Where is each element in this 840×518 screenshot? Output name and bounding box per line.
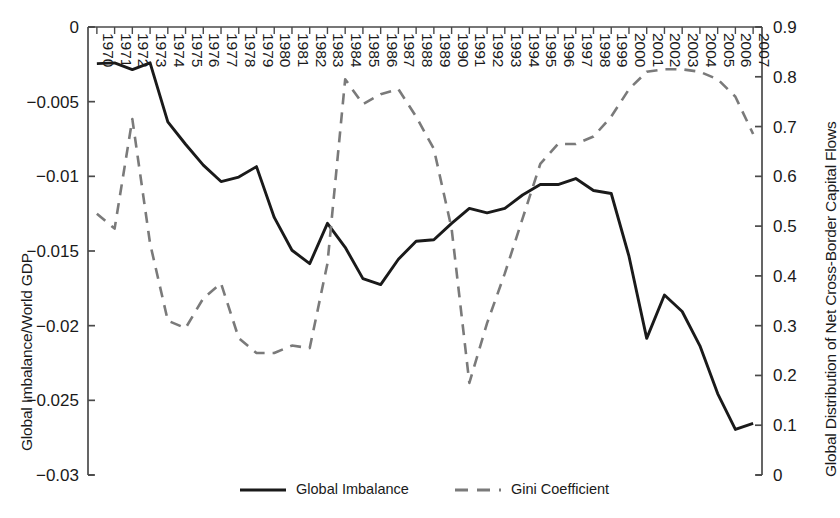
right-y-tick-label: 0.4 [773,267,797,286]
x-axis-tick-label: 1994 [526,33,543,68]
left-y-tick-label: −0.005 [27,93,79,112]
x-axis-tick-label: 2006 [738,33,755,67]
left-y-tick-label: −0.03 [36,466,79,485]
right-y-tick-label: 0.8 [773,68,797,87]
x-axis-tick-label: 1977 [224,33,241,67]
x-axis-tick-label: 1987 [401,33,418,67]
x-axis-tick-label: 1981 [295,33,312,67]
x-axis-tick-label: 1983 [330,33,347,67]
x-axis-tick-label: 1975 [189,33,206,67]
x-axis-tick-label: 1993 [508,33,525,67]
x-axis-tick-label: 1982 [313,33,330,67]
x-axis-tick-label: 1971 [118,33,135,67]
right-y-tick-label: 0.5 [773,217,797,236]
right-axis-title: Global Distribution of Net Cross-Border … [822,121,840,477]
x-axis-tick-label: 1995 [543,33,560,67]
left-y-tick-label: −0.01 [36,167,79,186]
legend-label-global-imbalance: Global Imbalance [296,481,409,497]
x-axis-labels: 1970197119721973197419751976197719781979… [100,33,773,68]
x-axis-tick-label: 1976 [206,33,223,67]
right-y-tick-label: 0.9 [773,18,797,37]
x-axis-tick-label: 1989 [437,33,454,67]
x-axis-tick-label: 1992 [490,33,507,67]
x-axis-tick-label: 2002 [667,33,684,67]
axes [88,27,762,475]
tick-labels: 0−0.005−0.01−0.015−0.02−0.025−0.030.90.8… [27,18,797,485]
series-line-gini-coefficient [97,69,753,383]
x-axis-tick-label: 1997 [579,33,596,67]
x-axis-tick-label: 1979 [260,33,277,67]
right-y-tick-label: 0 [773,466,782,485]
x-axis-tick-label: 2005 [721,33,738,67]
x-axis-tick-label: 2000 [632,33,649,68]
right-y-tick-label: 0.2 [773,366,797,385]
series-line-global-imbalance [97,63,753,430]
legend-label-gini-coefficient: Gini Coefficient [511,481,609,497]
x-axis-tick-label: 1999 [614,33,631,67]
x-axis-tick-label: 1990 [455,33,472,68]
x-axis-tick-label: 1978 [242,33,259,67]
data-series [97,63,753,430]
x-axis-tick-label: 1980 [277,33,294,68]
right-y-tick-label: 0.3 [773,317,797,336]
x-axis-tick-label: 1974 [171,33,188,68]
left-y-tick-label: 0 [70,18,79,37]
x-axis-tick-label: 1984 [348,33,365,68]
right-y-tick-label: 0.1 [773,416,797,435]
x-axis-tick-label: 1991 [472,33,489,67]
x-axis-tick-label: 1998 [597,33,614,67]
x-axis-tick-label: 1985 [366,33,383,67]
left-y-tick-label: −0.02 [36,317,79,336]
x-axis-tick-label: 2004 [703,33,720,68]
x-axis-tick-label: 2007 [756,33,773,67]
x-axis-tick-label: 1973 [153,33,170,67]
left-axis-title: Global Imbalance/World GDP [18,253,36,451]
x-axis-tick-label: 1986 [384,33,401,67]
right-y-tick-label: 0.7 [773,118,797,137]
x-axis-tick-label: 1996 [561,33,578,67]
x-axis-tick-label: 2001 [650,33,667,67]
x-axis-tick-label: 1988 [419,33,436,67]
right-y-tick-label: 0.6 [773,167,797,186]
x-axis-tick-label: 2003 [685,33,702,67]
